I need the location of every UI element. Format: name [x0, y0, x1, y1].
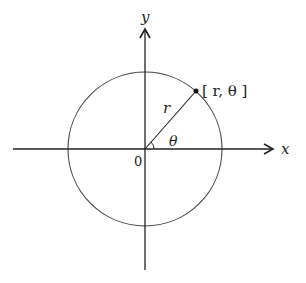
y-axis-label: y	[140, 8, 150, 26]
angle-arc	[151, 142, 154, 149]
polar-coordinates-diagram: y x 0 [ r, θ ] r θ	[0, 0, 306, 283]
point-marker	[194, 89, 199, 94]
radius-label: r	[163, 99, 171, 117]
angle-label: θ	[169, 133, 178, 149]
point-label: [ r, θ ]	[202, 82, 247, 100]
origin-label: 0	[134, 154, 142, 169]
x-axis-label: x	[281, 140, 290, 158]
